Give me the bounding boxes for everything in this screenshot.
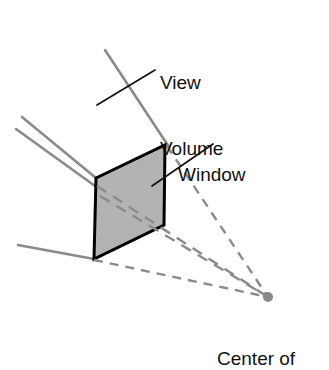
window-quad bbox=[94, 145, 165, 259]
leader-line-view-volume bbox=[97, 70, 155, 105]
label-cop-line1: Center of bbox=[217, 348, 302, 370]
volume-edge-upper-left-b bbox=[16, 129, 95, 186]
label-center-of-projection: Center of Projection bbox=[217, 304, 302, 370]
volume-edge-lower-left bbox=[18, 245, 94, 259]
label-window-line1: Window bbox=[178, 164, 246, 186]
volume-edge-upper-left-a bbox=[22, 117, 96, 178]
label-view-volume-line1: View bbox=[160, 72, 223, 94]
label-window: Window bbox=[178, 120, 246, 230]
ray-bottom-left bbox=[94, 260, 268, 297]
cop-dot-icon bbox=[263, 292, 273, 302]
perspective-projection-diagram: View Volume Window Center of Projection bbox=[0, 0, 329, 370]
